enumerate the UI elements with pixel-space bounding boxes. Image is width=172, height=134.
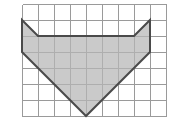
- figure-root: [0, 0, 172, 134]
- grid-figure-svg: [0, 0, 172, 134]
